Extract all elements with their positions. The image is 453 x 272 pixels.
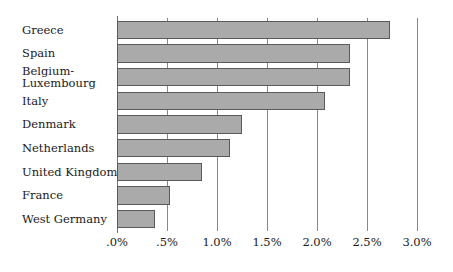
category-label: Netherlands — [22, 142, 94, 155]
bar — [117, 44, 350, 62]
tick-label: 2.5% — [352, 236, 381, 249]
bar — [117, 92, 325, 110]
bar — [117, 163, 202, 181]
tick-label: 1.0% — [202, 236, 231, 249]
category-label-line: Greece — [22, 24, 64, 37]
tick-label: 1.5% — [252, 236, 281, 249]
category-label-line: West Germany — [22, 213, 107, 226]
bar — [117, 139, 230, 157]
tick-label: 2.0% — [302, 236, 331, 249]
category-label: Greece — [22, 24, 64, 37]
plot-area — [117, 18, 417, 231]
category-label-line: Italy — [22, 95, 48, 108]
category-label-line: France — [22, 189, 63, 202]
category-label: Italy — [22, 95, 48, 108]
bar — [117, 68, 350, 86]
category-label-line: Luxembourg — [22, 77, 96, 90]
tick-label: .5% — [156, 236, 178, 249]
category-label-line: Netherlands — [22, 142, 94, 155]
category-label: Spain — [22, 47, 55, 60]
category-label: France — [22, 189, 63, 202]
category-label: Denmark — [22, 118, 76, 131]
category-label: Belgium-Luxembourg — [22, 65, 96, 90]
bar — [117, 186, 170, 204]
gridline — [417, 18, 418, 231]
category-label: United Kingdom — [22, 166, 117, 179]
tick-label: 3.0% — [402, 236, 431, 249]
tick-label: .0% — [106, 236, 128, 249]
bar — [117, 115, 242, 133]
bar-chart: GreeceSpainBelgium-LuxembourgItalyDenmar… — [0, 0, 453, 272]
category-label-line: United Kingdom — [22, 166, 117, 179]
category-label: West Germany — [22, 213, 107, 226]
gridline — [367, 18, 368, 231]
category-label-line: Spain — [22, 47, 55, 60]
bar — [117, 210, 155, 228]
category-axis-labels: GreeceSpainBelgium-LuxembourgItalyDenmar… — [0, 0, 113, 272]
category-label-line: Denmark — [22, 118, 76, 131]
bar — [117, 21, 390, 39]
